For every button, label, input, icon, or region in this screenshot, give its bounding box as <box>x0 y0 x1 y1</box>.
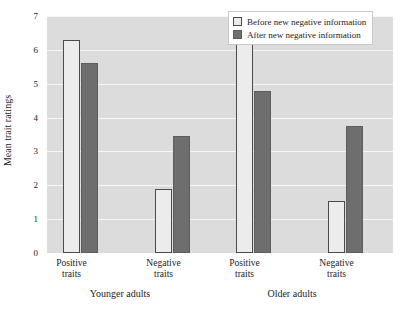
x-tick-line1-2: Positive <box>200 258 290 269</box>
gridline-3 <box>47 151 393 152</box>
bar-before-3 <box>328 201 345 253</box>
bar-after-3 <box>346 126 363 253</box>
x-tick-line1-1: Negative <box>119 258 209 269</box>
chart-figure: Mean trait ratings 01234567 Positivetrai… <box>0 0 405 311</box>
legend-entry-before: Before new negative information <box>233 15 366 28</box>
x-tick-label-1: Negativetraits <box>119 258 209 280</box>
legend-label-after: After new negative information <box>247 30 361 40</box>
y-tick-5: 5 <box>0 79 38 89</box>
after-swatch-icon <box>233 30 242 39</box>
x-tick-label-0: Positivetraits <box>27 258 117 280</box>
y-tick-6: 6 <box>0 45 38 55</box>
x-tick-line2-2: traits <box>200 269 290 280</box>
gridline-5 <box>47 84 393 85</box>
group-label-1: Older adults <box>217 288 367 299</box>
y-tick-0: 0 <box>0 248 38 258</box>
bar-after-1 <box>173 136 190 253</box>
before-swatch-icon <box>233 17 242 26</box>
bar-after-2 <box>254 91 271 254</box>
chart-legend: Before new negative information After ne… <box>228 11 373 45</box>
bar-before-1 <box>155 189 172 253</box>
plot-area <box>47 16 393 253</box>
gridline-4 <box>47 118 393 119</box>
y-tick-7: 7 <box>0 11 38 21</box>
x-tick-line2-3: traits <box>292 269 382 280</box>
x-tick-line2-0: traits <box>27 269 117 280</box>
y-tick-2: 2 <box>0 180 38 190</box>
x-tick-line1-0: Positive <box>27 258 117 269</box>
x-tick-line2-1: traits <box>119 269 209 280</box>
bar-before-2 <box>236 43 253 253</box>
cropped-title-fragment <box>0 0 405 6</box>
gridline-6 <box>47 50 393 51</box>
x-tick-label-3: Negativetraits <box>292 258 382 280</box>
bar-after-0 <box>81 63 98 253</box>
x-tick-label-2: Positivetraits <box>200 258 290 280</box>
legend-label-before: Before new negative information <box>247 17 366 27</box>
gridline-2 <box>47 185 393 186</box>
legend-entry-after: After new negative information <box>233 28 366 41</box>
y-tick-1: 1 <box>0 214 38 224</box>
group-label-0: Younger adults <box>45 288 195 299</box>
x-tick-line1-3: Negative <box>292 258 382 269</box>
bar-before-0 <box>63 40 80 253</box>
y-tick-3: 3 <box>0 146 38 156</box>
y-tick-4: 4 <box>0 113 38 123</box>
